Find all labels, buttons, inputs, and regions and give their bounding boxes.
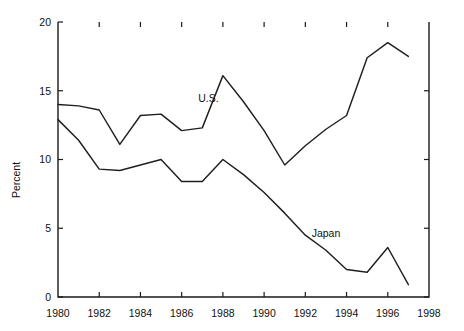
series-label-japan: Japan	[312, 227, 341, 239]
y-tick-label: 10	[39, 153, 51, 165]
series-line-japan	[58, 120, 408, 285]
series-lines	[58, 43, 408, 285]
y-axis-ticks: 05101520	[39, 16, 429, 303]
plot-frame	[58, 22, 429, 297]
series-label-u-s: U.S.	[198, 92, 218, 104]
y-tick-label: 15	[39, 85, 51, 97]
x-tick-label: 1996	[376, 307, 400, 319]
x-tick-label: 1994	[335, 307, 359, 319]
y-axis-label: Percent	[10, 162, 22, 198]
x-tick-label: 1988	[211, 307, 235, 319]
y-tick-label: 0	[45, 291, 51, 303]
x-tick-label: 1982	[88, 307, 112, 319]
y-tick-label: 5	[45, 222, 51, 234]
x-tick-label: 1992	[294, 307, 318, 319]
x-axis-ticks: 1980198219841986198819901992199419961998	[46, 22, 441, 319]
axis-frame	[58, 22, 429, 297]
x-tick-label: 1980	[46, 307, 70, 319]
y-axis-title-group: Percent	[10, 162, 22, 198]
x-tick-label: 1984	[129, 307, 153, 319]
x-tick-label: 1990	[252, 307, 276, 319]
x-tick-label: 1998	[417, 307, 441, 319]
series-annotations: U.S.Japan	[198, 92, 340, 239]
y-tick-label: 20	[39, 16, 51, 28]
x-tick-label: 1986	[170, 307, 194, 319]
line-chart: 05101520 1980198219841986198819901992199…	[0, 0, 464, 331]
chart-container: 05101520 1980198219841986198819901992199…	[0, 0, 464, 331]
series-line-u-s	[58, 43, 408, 165]
